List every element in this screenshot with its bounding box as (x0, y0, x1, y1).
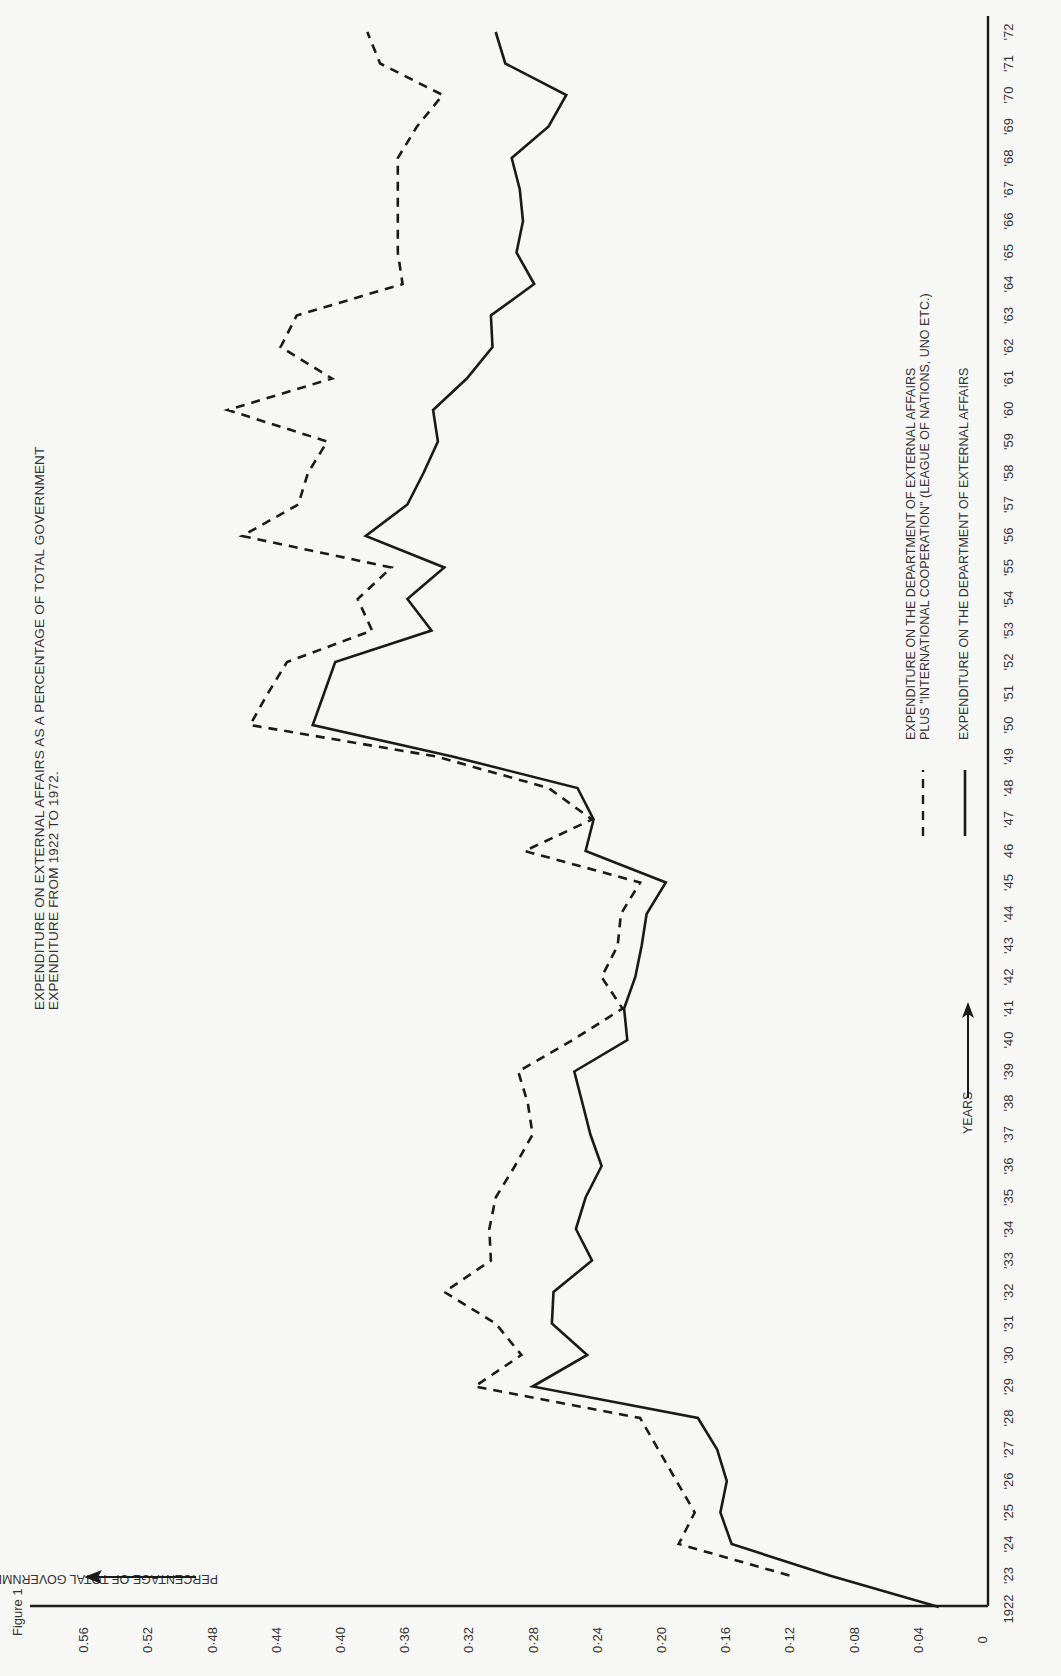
x-tick-label: '44 (1001, 906, 1016, 923)
y-tick-label: 0·24 (590, 1627, 605, 1653)
x-tick-label: '71 (1001, 55, 1016, 72)
x-tick-label: '34 (1001, 1221, 1016, 1238)
title-line-2: EXPENDITURE FROM 1922 TO 1972. (46, 771, 61, 1010)
chart-title: EXPENDITURE ON EXTERNAL AFFAIRS AS A PER… (32, 446, 61, 1010)
series-line-dept-plus-international (228, 32, 790, 1576)
x-tick-label: '54 (1001, 591, 1016, 608)
x-tick-label: '35 (1001, 1189, 1016, 1206)
x-tick-label: '61 (1001, 370, 1016, 387)
x-tick-label: '63 (1001, 307, 1016, 324)
x-tick-label: '57 (1001, 496, 1016, 513)
x-tick-label: 46 (1001, 844, 1016, 858)
x-tick-label: '24 (1001, 1536, 1016, 1553)
x-tick-label: '32 (1001, 1284, 1016, 1301)
x-axis-ticks: 1922'23'24'25'26'27'28'29'30'31'32'33'34… (1001, 24, 1016, 1624)
x-tick-label: '33 (1001, 1252, 1016, 1269)
x-tick-label: '56 (1001, 528, 1016, 545)
x-tick-label: 1922 (1001, 1595, 1016, 1624)
x-tick-label: '59 (1001, 433, 1016, 450)
x-tick-label: '29 (1001, 1378, 1016, 1395)
x-tick-label: '60 (1001, 402, 1016, 419)
legend-item-solid: EXPENDITURE ON THE DEPARTMENT OF EXTERNA… (957, 368, 971, 836)
x-tick-label: '39 (1001, 1063, 1016, 1080)
y-tick-label: 0·36 (397, 1627, 412, 1653)
y-tick-label: 0·44 (269, 1627, 284, 1653)
y-tick-label: 0·52 (140, 1627, 155, 1653)
chart-canvas: Figure 1 EXPENDITURE ON EXTERNAL AFFAIRS… (0, 0, 1061, 1676)
x-tick-label: '42 (1001, 969, 1016, 986)
x-tick-label: '64 (1001, 276, 1016, 293)
y-tick-label: 0·04 (911, 1627, 926, 1653)
x-tick-label: '25 (1001, 1504, 1016, 1521)
x-tick-label: '68 (1001, 150, 1016, 167)
x-tick-label: '45 (1001, 874, 1016, 891)
y-tick-label: 0 (975, 1636, 990, 1643)
x-tick-label: '47 (1001, 811, 1016, 828)
x-tick-label: '41 (1001, 1000, 1016, 1017)
x-tick-label: '38 (1001, 1095, 1016, 1112)
x-tick-label: '37 (1001, 1126, 1016, 1143)
x-tick-label: '70 (1001, 87, 1016, 104)
x-tick-label: '43 (1001, 937, 1016, 954)
x-tick-label: '28 (1001, 1410, 1016, 1427)
legend-dashed-line-1: EXPENDITURE ON THE DEPARTMENT OF EXTERNA… (904, 368, 918, 740)
legend-item-dashed: EXPENDITURE ON THE DEPARTMENT OF EXTERNA… (904, 293, 932, 836)
x-tick-label: '55 (1001, 559, 1016, 576)
y-tick-label: 0·48 (205, 1627, 220, 1653)
x-tick-label: '27 (1001, 1441, 1016, 1458)
x-axis-arrow-icon (962, 1002, 974, 1098)
x-tick-label: '52 (1001, 654, 1016, 671)
x-tick-label: '65 (1001, 244, 1016, 261)
y-tick-label: 0·40 (333, 1627, 348, 1653)
x-tick-label: '26 (1001, 1473, 1016, 1490)
figure-label: Figure 1 (10, 1588, 25, 1636)
series-line-dept-external-affairs (313, 32, 939, 1607)
x-tick-label: '66 (1001, 213, 1016, 230)
y-tick-label: 0.56 (76, 1627, 91, 1652)
x-tick-label: '62 (1001, 339, 1016, 356)
x-tick-label: '31 (1001, 1315, 1016, 1332)
x-tick-label: '50 (1001, 717, 1016, 734)
x-tick-label: '40 (1001, 1032, 1016, 1049)
legend-dashed-line-2: PLUS "INTERNATIONAL COOPERATION" (LEAGUE… (918, 293, 932, 740)
y-tick-label: 0·32 (461, 1627, 476, 1653)
x-tick-label: '48 (1001, 780, 1016, 797)
legend-solid-line-1: EXPENDITURE ON THE DEPARTMENT OF EXTERNA… (957, 368, 971, 740)
y-tick-label: 0·20 (654, 1627, 669, 1653)
y-tick-label: 0·12 (782, 1627, 797, 1653)
x-tick-label: '23 (1001, 1567, 1016, 1584)
x-tick-label: '72 (1001, 24, 1016, 41)
x-tick-label: '69 (1001, 118, 1016, 135)
legend: EXPENDITURE ON THE DEPARTMENT OF EXTERNA… (904, 293, 971, 836)
x-tick-label: '36 (1001, 1158, 1016, 1175)
y-axis-label: PERCENTAGE OF TOTAL GOVERNMENT EXPENDITU… (0, 1572, 218, 1586)
x-tick-label: '53 (1001, 622, 1016, 639)
x-tick-label: '67 (1001, 181, 1016, 198)
x-tick-label: '49 (1001, 748, 1016, 765)
y-axis-ticks: 00·040·080·120·160·200·240·280·320·360·4… (76, 1627, 990, 1653)
title-line-1: EXPENDITURE ON EXTERNAL AFFAIRS AS A PER… (32, 446, 47, 1010)
y-tick-label: 0·08 (847, 1627, 862, 1653)
x-tick-label: '58 (1001, 465, 1016, 482)
y-tick-label: 0·16 (718, 1627, 733, 1653)
y-tick-label: 0·28 (526, 1627, 541, 1653)
x-tick-label: '30 (1001, 1347, 1016, 1364)
x-tick-label: '51 (1001, 685, 1016, 702)
